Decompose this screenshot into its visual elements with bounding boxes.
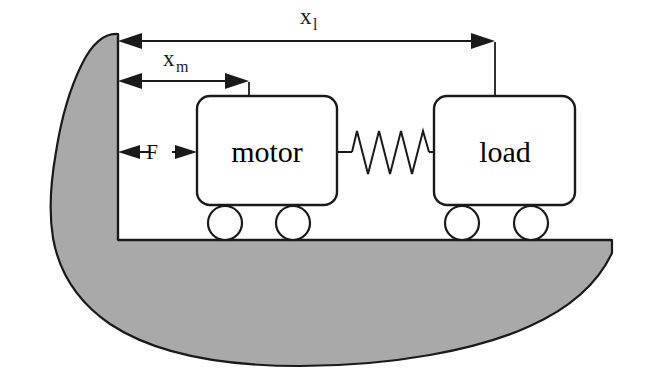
force-arrowhead-left [118, 145, 140, 159]
x-load-arrowhead-left [118, 33, 142, 49]
dimension-x-motor: x m [118, 46, 249, 97]
spring-coils [352, 131, 429, 174]
mechanical-system-diagram: x l x m F [0, 0, 650, 375]
motor-label: motor [231, 135, 303, 168]
load-body-group[interactable]: load [434, 96, 575, 240]
dimension-x-load: x l [118, 4, 495, 97]
x-motor-label-subscript: m [176, 58, 189, 75]
x-load-label-subscript: l [313, 16, 318, 33]
x-load-label-base: x [300, 4, 312, 29]
load-wheel-front [445, 206, 479, 240]
motor-wheel-front [208, 206, 242, 240]
load-label: load [479, 135, 531, 168]
diagram-canvas: x l x m F [0, 0, 650, 375]
force-label: F [146, 140, 158, 164]
motor-wheel-rear [276, 206, 310, 240]
x-motor-arrowhead-right [225, 73, 249, 89]
x-motor-label-base: x [163, 46, 175, 71]
motor-body-group[interactable]: motor [197, 96, 337, 240]
spring-connector [337, 131, 434, 174]
x-load-arrowhead-right [471, 33, 495, 49]
force-arrow-group: F [118, 140, 197, 164]
x-motor-arrowhead-left [118, 73, 142, 89]
load-wheel-rear [514, 206, 548, 240]
force-arrowhead-right [175, 145, 197, 159]
